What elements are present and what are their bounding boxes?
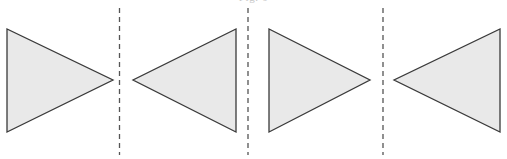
triangle-group (7, 29, 500, 132)
triangle-2 (133, 29, 236, 132)
figure-canvas: Fig. 6 (0, 0, 507, 159)
figure-drawing (0, 0, 507, 159)
triangle-4 (394, 29, 500, 132)
triangle-1 (7, 29, 113, 132)
triangle-3 (269, 29, 370, 132)
